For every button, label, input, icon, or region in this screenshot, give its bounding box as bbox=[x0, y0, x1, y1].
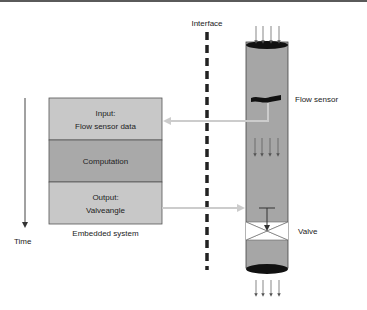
time-label: Time bbox=[14, 237, 32, 246]
pipe bbox=[246, 26, 288, 295]
embedded-system: Input: Flow sensor data Computation Outp… bbox=[49, 98, 162, 238]
valve-label: Valve bbox=[298, 227, 318, 236]
inflow-arrows bbox=[256, 26, 279, 42]
output-block bbox=[49, 182, 162, 224]
diagram-canvas: Time Input: Flow sensor data Computation… bbox=[0, 0, 367, 310]
pipe-top-opening bbox=[246, 41, 288, 49]
outflow-arrows bbox=[256, 280, 279, 295]
flow-sensor-label: Flow sensor bbox=[295, 95, 338, 104]
embedded-system-caption: Embedded system bbox=[72, 229, 139, 238]
input-block-line1: Input: bbox=[95, 109, 115, 118]
interface-label: Interface bbox=[191, 19, 223, 28]
output-block-line1: Output: bbox=[92, 193, 118, 202]
valve-angle-arrow bbox=[162, 204, 245, 212]
output-block-line2: Valveangle bbox=[86, 206, 126, 215]
computation-block-label: Computation bbox=[83, 157, 128, 166]
input-block bbox=[49, 98, 162, 140]
input-block-line2: Flow sensor data bbox=[75, 122, 136, 131]
pipe-bottom-opening bbox=[246, 264, 288, 274]
